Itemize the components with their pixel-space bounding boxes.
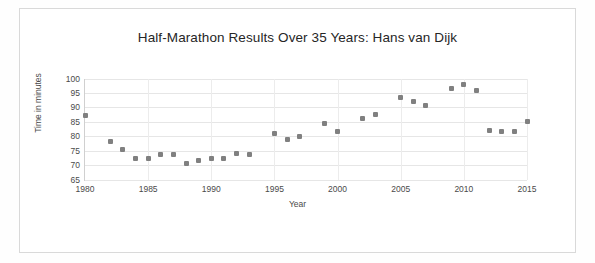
gridline-vertical	[401, 79, 402, 180]
data-point	[83, 113, 88, 118]
data-point	[158, 152, 163, 157]
x-tick-label: 1995	[254, 184, 294, 194]
y-tick-label: 85	[36, 117, 80, 127]
gridline-horizontal	[85, 79, 527, 80]
gridline-horizontal	[85, 122, 527, 123]
y-axis-ticks: 65707580859095100	[28, 79, 80, 180]
gridline-horizontal	[85, 151, 527, 152]
data-point	[487, 128, 492, 133]
y-tick-label: 100	[36, 74, 80, 84]
y-tick-label: 65	[36, 175, 80, 185]
x-tick-label: 2010	[444, 184, 484, 194]
gridline-vertical	[464, 79, 465, 180]
data-point	[512, 129, 517, 134]
y-tick-label: 70	[36, 160, 80, 170]
y-tick-label: 75	[36, 146, 80, 156]
x-axis-label: Year	[0, 199, 595, 209]
data-point	[322, 121, 327, 126]
y-tick-label: 95	[36, 88, 80, 98]
data-point	[373, 112, 378, 117]
chart-figure: Half-Marathon Results Over 35 Years: Han…	[0, 0, 595, 263]
data-point	[184, 161, 189, 166]
gridline-vertical	[211, 79, 212, 180]
data-point	[360, 116, 365, 121]
data-point	[285, 137, 290, 142]
data-point	[272, 131, 277, 136]
data-point	[247, 152, 252, 157]
gridline-horizontal	[85, 136, 527, 137]
x-tick-label: 2015	[507, 184, 547, 194]
data-point	[423, 103, 428, 108]
x-tick-label: 2000	[318, 184, 358, 194]
data-point	[499, 129, 504, 134]
gridline-vertical	[274, 79, 275, 180]
data-point	[297, 134, 302, 139]
data-point	[234, 151, 239, 156]
data-point	[108, 139, 113, 144]
x-tick-label: 2005	[381, 184, 421, 194]
gridline-horizontal	[85, 107, 527, 108]
data-point	[171, 152, 176, 157]
data-point	[474, 88, 479, 93]
data-point	[120, 147, 125, 152]
data-point	[398, 95, 403, 100]
x-tick-label: 1990	[191, 184, 231, 194]
gridline-horizontal	[85, 93, 527, 94]
x-tick-label: 1980	[65, 184, 105, 194]
y-tick-label: 90	[36, 102, 80, 112]
data-point	[461, 82, 466, 87]
data-point	[525, 119, 530, 124]
chart-title: Half-Marathon Results Over 35 Years: Han…	[0, 30, 595, 45]
data-point	[221, 156, 226, 161]
gridline-vertical	[148, 79, 149, 180]
data-point	[335, 129, 340, 134]
data-point	[411, 99, 416, 104]
gridline-horizontal	[85, 165, 527, 166]
data-point	[449, 86, 454, 91]
data-point	[209, 156, 214, 161]
data-point	[133, 156, 138, 161]
y-tick-label: 80	[36, 131, 80, 141]
data-point	[146, 156, 151, 161]
plot-area	[85, 79, 527, 180]
x-tick-label: 1985	[128, 184, 168, 194]
gridline-vertical	[527, 79, 528, 180]
data-point	[196, 158, 201, 163]
x-axis-ticks: 19801985199019952000200520102015	[85, 184, 527, 198]
gridline-horizontal	[85, 180, 527, 181]
